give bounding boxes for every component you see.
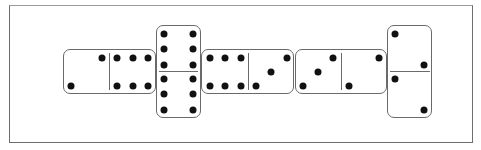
pip	[190, 31, 197, 38]
pip	[190, 46, 197, 53]
pip	[222, 83, 229, 90]
pip	[145, 83, 152, 90]
pip	[330, 55, 337, 62]
domino-6-3[interactable]: 6-3	[201, 49, 294, 94]
pip	[238, 83, 245, 90]
pip	[190, 91, 197, 98]
pip	[238, 55, 245, 62]
pip	[207, 83, 214, 90]
domino-half-top-2	[388, 26, 433, 72]
domino-half-bottom-2	[388, 72, 433, 118]
pip	[161, 31, 168, 38]
domino-half-right-6	[110, 50, 156, 95]
pip	[145, 55, 152, 62]
domino-half-left-6	[202, 50, 248, 95]
domino-half-bottom-6	[157, 72, 202, 118]
pip	[114, 83, 121, 90]
pip	[284, 55, 291, 62]
pip	[161, 91, 168, 98]
pip	[421, 107, 428, 114]
pip	[253, 83, 260, 90]
pip	[68, 83, 75, 90]
domino-half-right-3	[249, 50, 295, 95]
pip	[130, 55, 137, 62]
pip	[222, 55, 229, 62]
pip	[376, 55, 383, 62]
pip	[207, 55, 214, 62]
domino-half-left-3	[296, 50, 342, 95]
domino-2-2[interactable]: 2-2	[387, 25, 432, 118]
pip	[300, 83, 307, 90]
pip	[392, 31, 399, 38]
domino-3-2[interactable]: 3-2	[295, 49, 387, 94]
pip	[421, 62, 428, 69]
pip	[190, 76, 197, 83]
domino-half-left-2	[64, 50, 110, 95]
domino-half-right-2	[342, 50, 388, 95]
domino-6-6[interactable]: 6-6	[156, 25, 201, 118]
pip	[346, 83, 353, 90]
pip	[161, 107, 168, 114]
pip	[99, 55, 106, 62]
pip	[161, 62, 168, 69]
pip	[161, 76, 168, 83]
domino-half-top-6	[157, 26, 202, 72]
pip	[392, 76, 399, 83]
pip	[130, 83, 137, 90]
pip	[114, 55, 121, 62]
domino-2-6[interactable]: 2-6	[63, 49, 156, 94]
pip	[315, 69, 322, 76]
pip	[161, 46, 168, 53]
pip	[268, 69, 275, 76]
pip	[190, 107, 197, 114]
pip	[190, 62, 197, 69]
